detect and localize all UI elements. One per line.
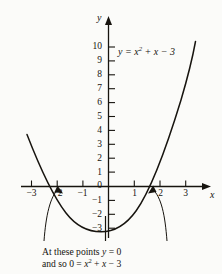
x-tick-label-neg3: −3 [22,189,41,199]
y-tick-marks [109,47,116,228]
y-tick-label-7: 7 [86,84,102,94]
y-tick-label-9: 9 [86,56,102,66]
x-tick-label-neg1: −1 [73,189,92,199]
annotation-caption: At these points y = 0 and so 0 = x2 + x … [42,246,121,269]
y-tick-label-neg2: −2 [84,210,102,220]
x-tick-label-1: 1 [126,189,143,199]
annotation-line-2: and so 0 = x2 + x − 3 [42,258,121,270]
y-tick-label-8: 8 [86,70,102,80]
parabola-figure [0,0,222,274]
y-tick-label-5: 5 [86,112,102,122]
y-tick-label-1: 1 [86,168,102,178]
annotation-line2-prefix: and so 0 = [42,258,84,269]
curve-equation-label: y = x2 + x − 3 [118,47,175,57]
y-tick-label-neg3: −3 [84,224,102,234]
x-tick-label-3: 3 [177,189,194,199]
equation-plus: + [142,46,154,57]
equation-minus-three: − 3 [158,46,175,57]
annotation-line1-prefix: At these points [42,246,102,257]
y-tick-label-3: 3 [86,140,102,150]
y-tick-label-10: 10 [86,42,102,52]
x-tick-label-2: 2 [152,189,169,199]
annotation-line2-mid: + [92,258,102,269]
x-axis-label: x [210,190,214,200]
x-tick-label-neg2: −2 [48,189,67,199]
annotation-line-1: At these points y = 0 [42,246,121,258]
annotation-line2-tail: − 3 [106,258,121,269]
y-tick-label-2: 2 [86,154,102,164]
y-axis-arrowhead [105,16,112,25]
annotation-line1-suffix: = 0 [106,246,121,257]
y-axis-label: y [97,13,101,23]
parabola-curve [27,42,196,232]
y-tick-label-4: 4 [86,126,102,136]
equation-equals: = [122,46,134,57]
y-tick-label-6: 6 [86,98,102,108]
